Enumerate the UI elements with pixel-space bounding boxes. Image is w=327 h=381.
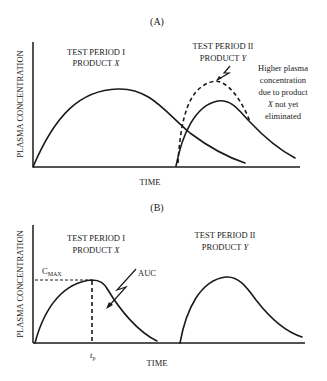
cmax-label: CMAX: [42, 266, 62, 277]
product-label: PRODUCT: [73, 58, 115, 68]
panel-b-period-1-line1: TEST PERIOD I: [67, 233, 125, 243]
panel-b-curve-product-y: [180, 277, 302, 343]
product-label: PRODUCT: [200, 53, 242, 63]
annotation-line-5: eliminated: [265, 111, 302, 121]
auc-label: AUC: [138, 268, 156, 278]
product-var: X: [113, 245, 120, 255]
panel-b-period-2-line2: PRODUCT Y: [202, 242, 250, 252]
lightning-arrow-icon: [216, 66, 230, 81]
panel-b-period-2-line1: TEST PERIOD II: [195, 230, 256, 240]
cmax-sub: MAX: [48, 271, 63, 277]
panel-a-x-axis-label: TIME: [140, 177, 161, 187]
panel-a-y-axis-label: PLASMA CONCENTRATION: [15, 50, 25, 157]
product-label: PRODUCT: [73, 245, 115, 255]
panel-b-title: (B): [150, 202, 163, 214]
panel-a: (A) PLASMA CONCENTRATION TIME TEST PERIO…: [15, 16, 308, 187]
annotation-rest: not yet: [273, 99, 299, 109]
panel-b: (B) PLASMA CONCENTRATION TIME TEST PERIO…: [15, 202, 305, 368]
panel-a-curve-product-x: [33, 89, 245, 167]
panel-a-period-1-line2: PRODUCT X: [73, 58, 121, 68]
panel-a-period-2-line2: PRODUCT Y: [200, 53, 248, 63]
annotation-line-2: concentration: [260, 75, 307, 85]
product-var: Y: [243, 242, 249, 252]
annotation-line-3: due to product: [258, 87, 308, 97]
panel-a-period-1-line1: TEST PERIOD I: [67, 47, 125, 57]
panel-a-title: (A): [150, 16, 164, 28]
panel-b-period-1-line2: PRODUCT X: [73, 245, 121, 255]
tp-sub: p: [92, 355, 95, 361]
tp-label: tp: [90, 350, 95, 361]
product-var: X: [113, 58, 120, 68]
panel-a-annotation: Higher plasma concentration due to produ…: [258, 63, 308, 121]
bioequivalence-diagram: (A) PLASMA CONCENTRATION TIME TEST PERIO…: [0, 0, 327, 381]
product-label: PRODUCT: [202, 242, 244, 252]
annotation-line-1: Higher plasma: [258, 63, 308, 73]
annotation-line-4: X not yet: [267, 99, 299, 109]
panel-b-curve-product-x: [35, 280, 157, 343]
panel-a-dashed-combined-curve: [178, 81, 250, 163]
panel-b-x-axis-label: TIME: [147, 358, 168, 368]
panel-a-period-2-line1: TEST PERIOD II: [193, 41, 254, 51]
panel-b-y-axis-label: PLASMA CONCENTRATION: [15, 230, 25, 337]
auc-arrow-icon: [106, 269, 136, 309]
product-var: Y: [241, 53, 247, 63]
